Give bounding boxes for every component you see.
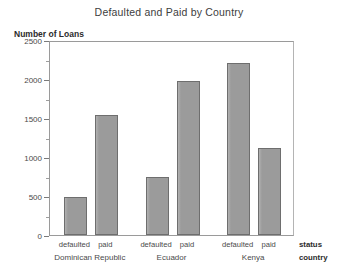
x-axis-status-label: defaulted (222, 240, 253, 249)
y-axis-tick-minor (46, 217, 49, 218)
y-axis-tick-major (44, 197, 49, 198)
y-axis-tick-label: 500 (2, 193, 42, 202)
bar-kenya-paid (258, 148, 281, 235)
y-axis-tick-major (44, 41, 49, 42)
y-axis-tick-label: 1500 (2, 115, 42, 124)
x-axis-group-name-status: status (299, 240, 322, 249)
plot-area (49, 41, 294, 236)
x-axis-status-label: paid (98, 240, 112, 249)
y-axis-tick-label: 2500 (2, 37, 42, 46)
x-axis-country-label: Dominican Republic (54, 253, 125, 262)
bar-kenya-defaulted (227, 63, 250, 235)
x-axis-status-label: defaulted (140, 240, 171, 249)
y-axis-tick-label: 1000 (2, 154, 42, 163)
bar-ecuador-paid (177, 81, 200, 235)
y-axis-tick-minor (46, 139, 49, 140)
page-title: Defaulted and Paid by Country (0, 6, 338, 18)
x-axis-country-label: Kenya (242, 253, 265, 262)
chart-screenshot: Defaulted and Paid by Country Number of … (0, 0, 338, 277)
plot-inner (50, 42, 293, 235)
bar-ecuador-defaulted (146, 177, 169, 236)
y-axis-tick-minor (46, 61, 49, 62)
x-axis-status-label: paid (180, 240, 194, 249)
y-axis-tick-major (44, 236, 49, 237)
y-axis-tick-minor (46, 100, 49, 101)
y-axis-tick-major (44, 119, 49, 120)
x-axis-group-name-country: country (299, 253, 328, 262)
x-axis-country-label: Ecuador (157, 253, 187, 262)
x-axis-status-label: defaulted (59, 240, 90, 249)
bar-dominican-republic-defaulted (64, 197, 87, 235)
x-axis-status-label: paid (261, 240, 275, 249)
y-axis-tick-major (44, 158, 49, 159)
y-axis-tick-major (44, 80, 49, 81)
y-axis-labels: 05001000150020002500 (0, 0, 42, 277)
bar-dominican-republic-paid (95, 115, 118, 235)
y-axis-tick-minor (46, 178, 49, 179)
y-axis-tick-label: 2000 (2, 76, 42, 85)
y-axis-tick-label: 0 (2, 232, 42, 241)
